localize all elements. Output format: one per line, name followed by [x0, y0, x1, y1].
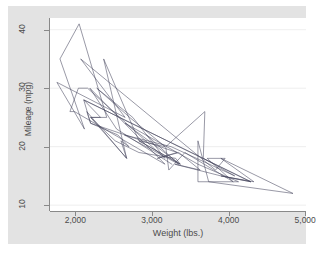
x-tick-label: 4,000 [199, 215, 259, 225]
x-axis-line [50, 211, 306, 212]
plot-region [50, 18, 306, 211]
chart-figure: 10203040 2,0003,0004,0005,000 Mileage (m… [0, 0, 316, 254]
y-tick-mark [44, 147, 49, 148]
y-tick-label: 40 [17, 9, 27, 49]
graph-region: 10203040 2,0003,0004,0005,000 Mileage (m… [8, 6, 306, 244]
plot-svg [50, 18, 306, 211]
x-tick-label: 2,000 [45, 215, 105, 225]
series-line-mileage-weight [57, 24, 293, 194]
y-tick-mark [44, 88, 49, 89]
x-tick-label: 3,000 [122, 215, 182, 225]
x-axis-title: Weight (lbs.) [50, 228, 306, 238]
y-tick-mark [44, 30, 49, 31]
y-axis-line [49, 18, 50, 211]
y-tick-label: 10 [17, 184, 27, 224]
y-tick-mark [44, 205, 49, 206]
y-axis-title: Mileage (mpg) [23, 49, 33, 169]
x-tick-label: 5,000 [275, 215, 316, 225]
